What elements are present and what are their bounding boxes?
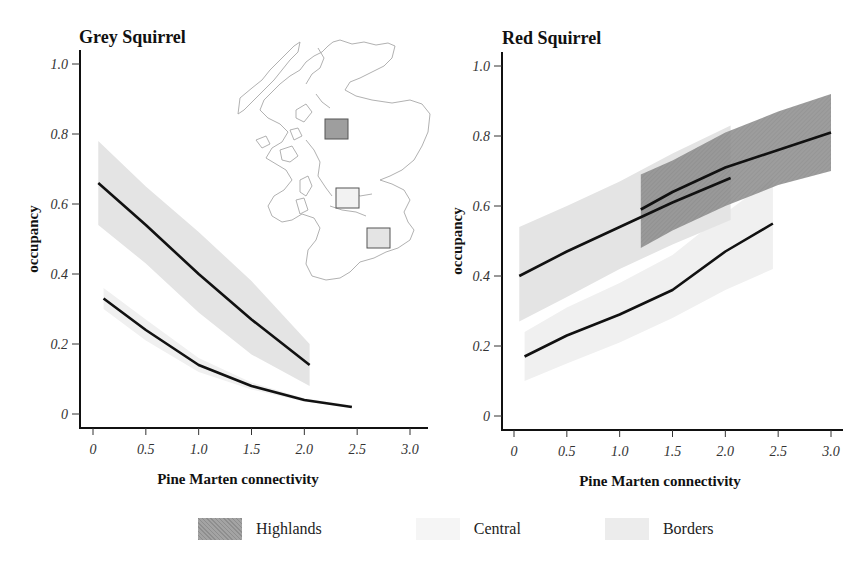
x-tick-label: 2.0 — [296, 442, 314, 457]
map-box-borders — [367, 228, 390, 248]
scotland-map — [238, 40, 430, 280]
legend-item-borders: Borders — [605, 518, 714, 540]
y-tick-label: 0.6 — [473, 199, 491, 214]
y-tick-label: 0.8 — [51, 127, 69, 142]
x-tick-label: 0 — [90, 442, 97, 457]
legend: Highlands Central Borders — [198, 518, 768, 540]
map-box-highlands — [325, 119, 348, 139]
x-tick-label: 3.0 — [821, 444, 840, 459]
legend-swatch-highlands — [198, 518, 242, 540]
x-tick-label: 2.0 — [717, 444, 735, 459]
x-tick-label: 1.5 — [664, 444, 682, 459]
x-axis-title: Pine Marten connectivity — [579, 473, 741, 489]
legend-label-borders: Borders — [663, 520, 714, 538]
y-axis-title: occupancy — [449, 207, 465, 275]
y-tick-label: 1.0 — [51, 57, 69, 72]
x-tick-label: 0.5 — [137, 442, 155, 457]
y-axis-title: occupancy — [25, 205, 41, 273]
x-tick-label: 2.5 — [348, 442, 366, 457]
x-tick-label: 3.0 — [400, 442, 419, 457]
legend-swatch-central — [416, 518, 460, 540]
x-tick-label: 2.5 — [769, 444, 787, 459]
y-tick-label: 0.4 — [473, 269, 491, 284]
red-squirrel-plot: 00.20.40.60.81.000.51.01.52.02.53.0Pine … — [449, 52, 843, 489]
y-tick-label: 0 — [61, 407, 68, 422]
legend-label-central: Central — [474, 520, 521, 538]
y-tick-label: 0.8 — [473, 129, 491, 144]
x-tick-label: 1.0 — [190, 442, 208, 457]
legend-label-highlands: Highlands — [256, 520, 322, 538]
x-tick-label: 0.5 — [558, 444, 576, 459]
y-tick-label: 0.4 — [51, 267, 69, 282]
y-tick-label: 0.6 — [51, 197, 69, 212]
y-tick-label: 0.2 — [473, 339, 491, 354]
x-tick-label: 1.5 — [243, 442, 261, 457]
legend-swatch-borders — [605, 518, 649, 540]
band-central — [98, 141, 309, 386]
legend-item-central: Central — [416, 518, 521, 540]
y-tick-label: 1.0 — [473, 59, 491, 74]
x-tick-label: 1.0 — [611, 444, 629, 459]
legend-item-highlands: Highlands — [198, 518, 322, 540]
y-tick-label: 0 — [483, 409, 490, 424]
charts-canvas: 00.20.40.60.81.000.51.01.52.02.53.0Pine … — [0, 0, 864, 566]
x-axis-title: Pine Marten connectivity — [157, 471, 319, 487]
map-box-central — [336, 188, 359, 208]
x-tick-label: 0 — [511, 444, 518, 459]
y-tick-label: 0.2 — [51, 337, 69, 352]
grey-squirrel-plot: 00.20.40.60.81.000.51.01.52.02.53.0Pine … — [25, 50, 428, 487]
